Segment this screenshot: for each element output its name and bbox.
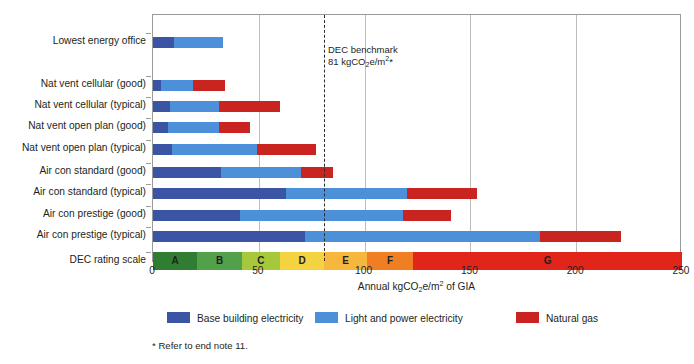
y-axis-label-5: Air con standard (good) — [0, 165, 146, 176]
legend-swatch-icon — [167, 312, 190, 323]
plot-area: ABCDEFG — [152, 14, 681, 262]
y-axis-tick-2 — [146, 97, 151, 98]
bar-segment-0-8 — [153, 231, 305, 242]
y-axis-tick-6 — [146, 184, 151, 185]
y-axis-label-3: Nat vent open plan (good) — [0, 120, 146, 131]
table-row — [153, 122, 682, 133]
gridline-50 — [259, 15, 260, 261]
bar-segment-1-1 — [161, 80, 193, 91]
y-axis-tick-5 — [146, 163, 151, 164]
bar-segment-0-5 — [153, 167, 221, 178]
bar-segment-1-2 — [170, 101, 219, 112]
table-row — [153, 210, 682, 221]
y-axis-tick-0 — [146, 33, 151, 34]
legend-item-0: Base building electricity — [167, 308, 303, 324]
y-axis-tick-7 — [146, 206, 151, 207]
gridline-150 — [470, 15, 471, 261]
table-row — [153, 101, 682, 112]
bar-segment-1-3 — [168, 122, 219, 133]
bar-segment-2-1 — [193, 80, 225, 91]
bar-segment-0-1 — [153, 80, 161, 91]
y-axis-tick-1 — [146, 76, 151, 77]
gridline-200 — [576, 15, 577, 261]
y-axis-label-6: Air con standard (typical) — [0, 186, 146, 197]
dec-benchmark-line — [324, 15, 325, 261]
table-row — [153, 37, 682, 48]
bar-segment-2-8 — [540, 231, 620, 242]
legend-item-1: Light and power electricity — [315, 308, 463, 324]
footnote: * Refer to end note 11. — [152, 340, 248, 351]
legend-swatch-icon — [516, 312, 539, 323]
y-axis-label-8: Air con prestige (typical) — [0, 229, 146, 240]
legend-label: Natural gas — [546, 313, 598, 324]
x-tick-label-100: 100 — [344, 265, 384, 276]
bar-segment-1-6 — [286, 188, 407, 199]
y-axis-label-7: Air con prestige (good) — [0, 208, 146, 219]
y-axis-tick-9 — [146, 252, 151, 253]
bar-segment-0-7 — [153, 210, 240, 221]
bar-segment-2-4 — [257, 144, 316, 155]
table-row — [153, 188, 682, 199]
y-axis-label-2: Nat vent cellular (typical) — [0, 99, 146, 110]
bar-segment-1-0 — [174, 37, 223, 48]
dec-benchmark-annotation-line2: 81 kgCO2e/m2* — [328, 56, 398, 69]
bar-segment-1-4 — [172, 144, 257, 155]
x-axis-title: Annual kgCO2e/m2 of GIA — [152, 281, 681, 292]
table-row — [153, 167, 682, 178]
legend-label: Base building electricity — [197, 313, 303, 324]
y-axis-label-4: Nat vent open plan (typical) — [0, 142, 146, 153]
x-tick-label-50: 50 — [238, 265, 278, 276]
bar-segment-1-8 — [305, 231, 540, 242]
y-axis-label-1: Nat vent cellular (good) — [0, 78, 146, 89]
bar-segment-1-7 — [240, 210, 403, 221]
y-axis-tick-3 — [146, 118, 151, 119]
bar-segment-0-3 — [153, 122, 168, 133]
bar-segment-2-3 — [219, 122, 251, 133]
table-row — [153, 231, 682, 242]
dec-benchmark-annotation: DEC benchmark 81 kgCO2e/m2* — [328, 44, 398, 69]
table-row — [153, 80, 682, 91]
y-axis-tick-8 — [146, 227, 151, 228]
legend: Base building electricityLight and power… — [0, 308, 694, 326]
bar-segment-2-7 — [403, 210, 452, 221]
bar-segment-0-6 — [153, 188, 286, 199]
rating-scale-track: ABCDEFG — [153, 252, 682, 270]
rating-band-b: B — [197, 252, 241, 270]
y-axis-label-9: DEC rating scale — [0, 254, 146, 265]
x-tick-label-200: 200 — [555, 265, 595, 276]
bar-segment-1-5 — [221, 167, 301, 178]
bar-segment-0-0 — [153, 37, 174, 48]
rating-band-d: D — [280, 252, 324, 270]
y-axis-tick-4 — [146, 140, 151, 141]
y-axis-label-0: Lowest energy office — [0, 35, 146, 46]
bar-segment-2-2 — [219, 101, 280, 112]
bar-segment-2-5 — [301, 167, 333, 178]
legend-item-2: Natural gas — [516, 308, 598, 324]
bar-segment-2-6 — [407, 188, 477, 199]
dec-emissions-benchmark-chart: Lowest energy officeNat vent cellular (g… — [0, 0, 694, 364]
legend-swatch-icon — [315, 312, 338, 323]
legend-label: Light and power electricity — [345, 313, 463, 324]
x-tick-label-250: 250 — [661, 265, 694, 276]
x-tick-label-150: 150 — [449, 265, 489, 276]
table-row — [153, 144, 682, 155]
bar-segment-0-4 — [153, 144, 172, 155]
bar-segment-0-2 — [153, 101, 170, 112]
x-tick-label-0: 0 — [132, 265, 172, 276]
